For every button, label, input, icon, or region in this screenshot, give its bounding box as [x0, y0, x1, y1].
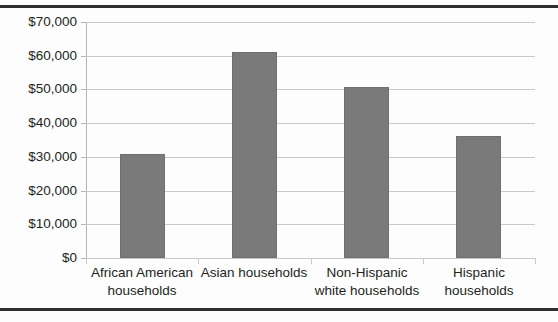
y-axis-tick-label: $0: [0, 251, 77, 265]
x-axis-category-label: African American households: [86, 264, 198, 300]
bar: [120, 154, 165, 258]
bar: [456, 136, 501, 258]
category-separator-tick: [535, 258, 536, 264]
y-axis-tick-label: $40,000: [0, 116, 77, 130]
y-axis-tick-label: $60,000: [0, 49, 77, 63]
bar-chart-figure: $0$10,000$20,000$30,000$40,000$50,000$60…: [0, 0, 558, 322]
x-axis-category-label: Asian households: [198, 264, 310, 282]
bar: [344, 87, 389, 258]
bar: [232, 52, 277, 258]
x-axis-category-label: Hispanic households: [423, 264, 535, 300]
x-axis-category-label: Non-Hispanic white households: [311, 264, 423, 300]
y-axis-tick-label: $50,000: [0, 82, 77, 96]
bottom-divider-rule: [0, 308, 558, 311]
y-axis-tick-label: $20,000: [0, 184, 77, 198]
y-axis-tick-label: $70,000: [0, 15, 77, 29]
y-axis-tick-label: $30,000: [0, 150, 77, 164]
top-divider-rule: [0, 5, 558, 8]
plot-area: [86, 22, 535, 258]
y-axis-tick-label: $10,000: [0, 217, 77, 231]
